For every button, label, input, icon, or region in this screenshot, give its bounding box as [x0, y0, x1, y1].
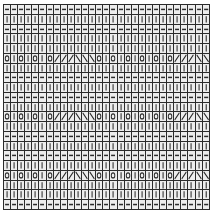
chart-cell — [39, 73, 46, 83]
chart-cell — [96, 122, 103, 132]
knit-symbol — [153, 181, 159, 190]
knit-symbol — [110, 34, 116, 43]
knit-symbol — [139, 83, 145, 92]
knit-symbol — [75, 15, 81, 24]
knit-symbol — [132, 83, 138, 92]
chart-cell — [18, 170, 25, 180]
chart-cell — [110, 170, 117, 180]
purl-symbol — [18, 132, 24, 141]
chart-cell — [138, 112, 145, 122]
yarn-over-symbol — [167, 171, 173, 180]
knit-symbol — [118, 142, 124, 151]
knit-symbol — [181, 34, 187, 43]
knit-symbol — [61, 103, 67, 112]
knit-symbol — [68, 161, 74, 170]
chart-cell — [145, 141, 152, 151]
chart-cell — [96, 112, 103, 122]
purl-symbol — [96, 5, 102, 14]
purl-symbol — [203, 132, 209, 141]
purl-symbol — [96, 73, 102, 82]
knit-symbol — [75, 190, 81, 199]
chart-cell — [60, 200, 67, 210]
knit-symbol — [110, 142, 116, 151]
chart-cell — [89, 34, 96, 44]
purl-symbol — [54, 5, 60, 14]
knit-symbol — [75, 34, 81, 43]
chart-cell — [25, 170, 32, 180]
purl-symbol — [203, 151, 209, 160]
knit-symbol — [18, 83, 24, 92]
yarn-over-symbol — [139, 171, 145, 180]
chart-cell — [11, 92, 18, 102]
purl-symbol — [160, 73, 166, 82]
knit-symbol — [188, 44, 194, 53]
chart-cell — [25, 53, 32, 63]
purl-symbol — [181, 73, 187, 82]
chart-cell — [25, 112, 32, 122]
purl-symbol — [89, 5, 95, 14]
yarn-over-symbol — [167, 112, 173, 121]
chart-cell — [152, 83, 159, 93]
chart-cell — [145, 131, 152, 141]
chart-cell — [4, 53, 11, 63]
chart-cell — [39, 83, 46, 93]
knit-symbol — [61, 161, 67, 170]
knit-symbol — [146, 171, 152, 180]
chart-cell — [96, 102, 103, 112]
knit-symbol — [82, 83, 88, 92]
knit-symbol — [203, 64, 209, 73]
chart-cell — [160, 180, 167, 190]
purl-symbol — [181, 5, 187, 14]
chart-cell — [110, 14, 117, 24]
chart-cell — [11, 161, 18, 171]
knit-symbol — [188, 181, 194, 190]
chart-cell — [124, 122, 131, 132]
chart-cell — [152, 34, 159, 44]
chart-cell — [39, 180, 46, 190]
ssk-decrease-symbol — [174, 112, 180, 121]
knit-symbol — [146, 54, 152, 63]
purl-symbol — [96, 151, 102, 160]
purl-symbol — [82, 5, 88, 14]
chart-cell — [67, 180, 74, 190]
chart-cell — [131, 161, 138, 171]
yarn-over-symbol — [4, 171, 10, 180]
knit-symbol — [132, 142, 138, 151]
chart-cell — [46, 92, 53, 102]
chart-cell — [32, 102, 39, 112]
purl-symbol — [132, 5, 138, 14]
chart-cell — [138, 92, 145, 102]
knit-symbol — [32, 44, 38, 53]
purl-symbol — [188, 73, 194, 82]
chart-cell — [202, 170, 209, 180]
chart-cell — [167, 151, 174, 161]
chart-cell — [4, 122, 11, 132]
knit-symbol — [196, 161, 202, 170]
chart-cell — [145, 102, 152, 112]
chart-cell — [74, 180, 81, 190]
purl-symbol — [125, 93, 131, 102]
knit-symbol — [39, 122, 45, 131]
chart-cell — [82, 161, 89, 171]
knit-symbol — [167, 142, 173, 151]
purl-symbol — [118, 93, 124, 102]
knit-symbol — [82, 122, 88, 131]
knit-symbol — [89, 181, 95, 190]
chart-row — [4, 24, 210, 34]
chart-cell — [188, 170, 195, 180]
purl-symbol — [153, 5, 159, 14]
knit-symbol — [174, 83, 180, 92]
chart-cell — [46, 112, 53, 122]
knit-symbol — [25, 103, 31, 112]
chart-cell — [82, 200, 89, 210]
knit-symbol — [75, 122, 81, 131]
chart-cell — [32, 141, 39, 151]
yarn-over-symbol — [96, 171, 102, 180]
chart-cell — [202, 53, 209, 63]
knit-symbol — [181, 44, 187, 53]
chart-cell — [188, 24, 195, 34]
chart-cell — [174, 5, 181, 15]
chart-cell — [145, 112, 152, 122]
chart-row — [4, 102, 210, 112]
chart-cell — [174, 102, 181, 112]
